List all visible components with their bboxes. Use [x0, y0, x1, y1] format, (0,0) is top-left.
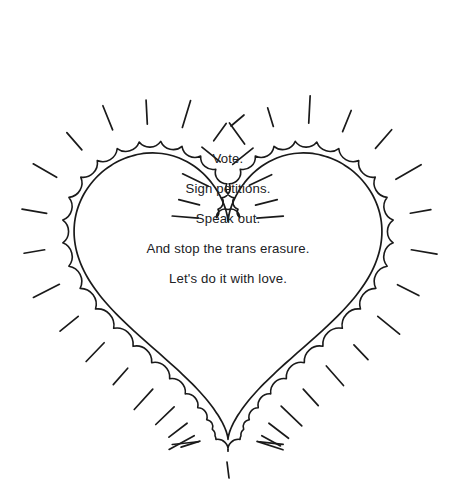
radiating-dash	[343, 110, 352, 131]
radiating-dash	[354, 345, 368, 360]
message-line-3: Speak out.	[196, 211, 261, 226]
radiating-dash	[257, 216, 283, 218]
radiating-dash	[24, 250, 45, 253]
radiating-dash	[67, 133, 82, 150]
radiating-dash	[309, 96, 310, 123]
message-line-4: And stop the trans erasure.	[146, 241, 309, 256]
radiating-dash	[214, 123, 226, 140]
radiating-dash	[268, 108, 274, 127]
radiating-dash	[169, 423, 187, 437]
radiating-dash	[113, 368, 127, 384]
radiating-dash	[269, 423, 289, 438]
radiating-dash	[411, 250, 437, 254]
radiating-dash	[396, 165, 421, 180]
message-line-1: Vote.	[213, 151, 244, 166]
radiating-dash	[398, 285, 419, 296]
radiating-dash-tip	[227, 462, 229, 478]
radiating-dash	[33, 164, 56, 178]
radiating-dash	[103, 106, 113, 130]
message-text-group: Vote.Sign petitions.Speak out.And stop t…	[146, 151, 309, 286]
radiating-dash	[156, 407, 174, 425]
heart-artwork-svg: Vote.Sign petitions.Speak out.And stop t…	[0, 0, 459, 491]
radiating-dash	[60, 316, 78, 331]
radiating-dash	[378, 316, 400, 334]
radiating-dash	[134, 389, 153, 409]
message-line-2: Sign petitions.	[185, 181, 270, 196]
radiating-dash	[410, 210, 430, 214]
heart-illustration-canvas: Vote.Sign petitions.Speak out.And stop t…	[0, 0, 459, 491]
radiating-dash	[375, 130, 391, 149]
radiating-dash	[33, 284, 59, 297]
radiating-dash	[182, 101, 190, 128]
radiating-dash	[303, 389, 318, 406]
radiating-dash	[86, 343, 104, 362]
cleft-flourish	[231, 115, 244, 126]
radiating-dash	[22, 209, 47, 213]
radiating-dash	[326, 366, 343, 386]
radiating-dash	[281, 406, 302, 426]
message-line-5: Let's do it with love.	[169, 271, 287, 286]
radiating-dash	[179, 200, 200, 205]
radiating-dash	[146, 100, 147, 124]
radiating-dash	[172, 216, 198, 218]
radiating-dash	[256, 200, 278, 206]
